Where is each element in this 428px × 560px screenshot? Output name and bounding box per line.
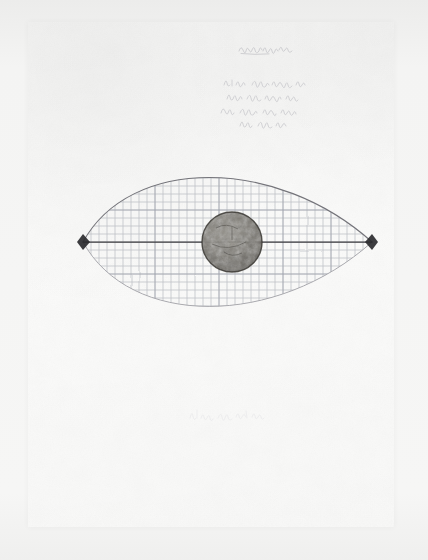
paper-sheet: [28, 22, 394, 527]
paper-grain: [28, 22, 394, 527]
scanned-page: (illegible cursive): [0, 0, 428, 560]
